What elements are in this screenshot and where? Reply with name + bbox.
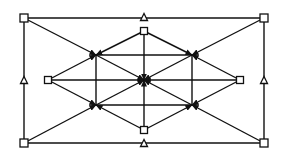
square-node-icon (45, 77, 52, 84)
network-diagram (0, 0, 288, 159)
triangle-node-icon (21, 77, 28, 84)
edge-sq_tl-j_ul (24, 18, 96, 55)
edge-sq_bl-j_ll (24, 105, 96, 143)
edge-sq_left-j_ul (48, 55, 96, 80)
edges-layer (24, 18, 264, 143)
square-node-icon (141, 28, 148, 35)
edge-sq_bottom-j_lr (144, 105, 192, 130)
edge-sq_top-j_ul (96, 31, 144, 55)
square-node-icon (260, 14, 268, 22)
edge-sq_top-j_ur (144, 31, 192, 55)
edge-sq_bottom-j_ll (96, 105, 144, 130)
square-node-icon (237, 77, 244, 84)
square-node-icon (20, 14, 28, 22)
edge-sq_right-j_lr (192, 80, 240, 105)
edge-sq_tr-j_ur (192, 18, 264, 55)
square-node-icon (20, 139, 28, 147)
square-node-icon (260, 139, 268, 147)
triangle-node-icon (141, 14, 148, 21)
edge-sq_left-j_ll (48, 80, 96, 105)
triangle-node-icon (261, 77, 268, 84)
edge-j_ul-j_center (96, 55, 144, 80)
edge-j_ll-j_center (96, 80, 144, 105)
edge-sq_br-j_lr (192, 105, 264, 143)
edge-sq_right-j_ur (192, 55, 240, 80)
edge-j_lr-j_center (144, 80, 192, 105)
square-node-icon (141, 127, 148, 134)
edge-j_ur-j_center (144, 55, 192, 80)
triangle-node-icon (141, 140, 148, 147)
